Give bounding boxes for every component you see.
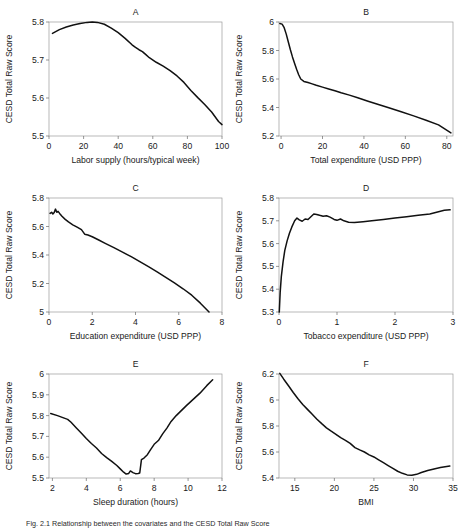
x-tick-label: 60	[148, 141, 158, 151]
x-tick-label: 35	[448, 483, 458, 493]
x-tick-label: 20	[330, 483, 340, 493]
y-tick-label: 5.4	[262, 473, 274, 483]
y-tick-label: 5.8	[262, 193, 274, 203]
panel-letter: C	[132, 183, 138, 193]
x-tick-label: 0	[47, 141, 52, 151]
y-tick-label: 5.4	[262, 284, 274, 294]
x-tick-label: 20	[318, 141, 328, 151]
y-axis-label: CESD Total Raw Score	[234, 210, 244, 299]
panel-a-plot: A5.55.65.75.8020406080100Labor supply (h…	[0, 0, 230, 176]
x-axis-label: Labor supply (hours/typical week)	[71, 155, 199, 165]
x-tick-label: 100	[215, 141, 230, 151]
data-curve	[51, 380, 213, 474]
plot-frame	[49, 22, 222, 136]
figure-caption: Fig. 2.1 Relationship between the covari…	[26, 519, 446, 529]
x-tick-label: 20	[79, 141, 89, 151]
y-tick-label: 5.8	[32, 17, 44, 27]
y-tick-label: 5.7	[32, 55, 44, 65]
panel-b-plot: B5.25.45.65.86020406080Total expenditure…	[230, 0, 461, 176]
y-tick-label: 5.2	[32, 279, 44, 289]
y-tick-label: 5.8	[32, 193, 44, 203]
x-tick-label: 0	[47, 317, 52, 327]
x-tick-label: 8	[220, 317, 225, 327]
x-tick-label: 2	[90, 317, 95, 327]
y-tick-label: 5.8	[262, 421, 274, 431]
x-tick-label: 10	[183, 483, 193, 493]
panel-d: D5.35.45.55.65.75.80123Tobacco expenditu…	[230, 176, 461, 352]
data-curve	[52, 22, 222, 125]
y-tick-label: 5	[39, 307, 44, 317]
data-curve	[280, 373, 450, 475]
x-axis-label: Tobacco expenditure (USD PPP)	[303, 331, 428, 341]
panel-e: E5.55.65.75.85.9624681012Sleep duration …	[0, 352, 230, 518]
y-axis-label: CESD Total Raw Score	[234, 381, 244, 470]
y-axis-label: CESD Total Raw Score	[234, 34, 244, 123]
y-tick-label: 5.8	[262, 46, 274, 56]
y-tick-label: 5.6	[262, 239, 274, 249]
x-tick-label: 80	[442, 141, 452, 151]
x-tick-label: 6	[118, 483, 123, 493]
panel-f: F5.45.65.866.21520253035BMICESD Total Ra…	[230, 352, 461, 518]
panel-letter: B	[363, 7, 369, 17]
x-tick-label: 25	[369, 483, 379, 493]
y-axis-label: CESD Total Raw Score	[4, 34, 14, 123]
x-tick-label: 3	[451, 317, 456, 327]
x-tick-label: 40	[359, 141, 369, 151]
panel-b: B5.25.45.65.86020406080Total expenditure…	[230, 0, 461, 176]
y-tick-label: 5.2	[262, 131, 274, 141]
x-tick-label: 0	[279, 141, 284, 151]
panel-letter: D	[363, 183, 369, 193]
y-tick-label: 5.4	[262, 103, 274, 113]
x-tick-label: 6	[176, 317, 181, 327]
panel-letter: E	[133, 359, 139, 369]
y-tick-label: 5.8	[32, 411, 44, 421]
panel-c-plot: C55.25.45.65.802468Education expenditure…	[0, 176, 230, 352]
y-tick-label: 6	[269, 17, 274, 27]
x-tick-label: 4	[84, 483, 89, 493]
x-tick-label: 2	[50, 483, 55, 493]
x-tick-label: 0	[277, 317, 282, 327]
y-tick-label: 5.3	[262, 307, 274, 317]
y-tick-label: 5.9	[32, 390, 44, 400]
y-axis-label: CESD Total Raw Score	[4, 210, 14, 299]
y-tick-label: 5.6	[32, 93, 44, 103]
y-axis-label: CESD Total Raw Score	[4, 381, 14, 470]
plot-frame	[49, 198, 222, 312]
x-tick-label: 12	[217, 483, 227, 493]
x-tick-label: 2	[393, 317, 398, 327]
data-curve	[280, 23, 451, 132]
x-tick-label: 8	[152, 483, 157, 493]
y-tick-label: 5.6	[262, 447, 274, 457]
y-tick-label: 5.7	[262, 216, 274, 226]
plot-frame	[279, 198, 453, 312]
x-axis-label: Total expenditure (USD PPP)	[310, 155, 421, 165]
y-tick-label: 5.7	[32, 431, 44, 441]
panel-c: C55.25.45.65.802468Education expenditure…	[0, 176, 230, 352]
y-tick-label: 5.4	[32, 250, 44, 260]
data-curve	[50, 209, 209, 312]
plot-frame	[279, 374, 453, 478]
x-tick-label: 30	[409, 483, 419, 493]
panel-letter: A	[133, 7, 139, 17]
panel-e-plot: E5.55.65.75.85.9624681012Sleep duration …	[0, 352, 230, 518]
plot-frame	[279, 22, 453, 136]
panel-f-plot: F5.45.65.866.21520253035BMICESD Total Ra…	[230, 352, 461, 518]
x-tick-label: 1	[335, 317, 340, 327]
x-tick-label: 40	[113, 141, 123, 151]
y-tick-label: 5.5	[262, 261, 274, 271]
figure-container: A5.55.65.75.8020406080100Labor supply (h…	[0, 0, 461, 529]
y-tick-label: 5.5	[32, 131, 44, 141]
y-tick-label: 5.6	[32, 222, 44, 232]
y-tick-label: 5.5	[32, 473, 44, 483]
y-tick-label: 5.6	[262, 74, 274, 84]
x-tick-label: 4	[133, 317, 138, 327]
panel-d-plot: D5.35.45.55.65.75.80123Tobacco expenditu…	[230, 176, 461, 352]
panel-a: A5.55.65.75.8020406080100Labor supply (h…	[0, 0, 230, 176]
y-tick-label: 6	[269, 395, 274, 405]
x-axis-label: Education expenditure (USD PPP)	[70, 331, 201, 341]
panel-letter: F	[363, 359, 368, 369]
x-axis-label: Sleep duration (hours)	[93, 497, 178, 507]
data-curve	[279, 210, 450, 312]
y-tick-label: 6	[39, 369, 44, 379]
x-tick-label: 60	[401, 141, 411, 151]
